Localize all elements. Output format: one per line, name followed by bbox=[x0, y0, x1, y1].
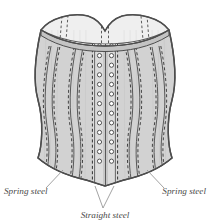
diagram-canvas: Spring steel Spring steel Straight steel bbox=[0, 0, 210, 223]
busk-eyelet bbox=[109, 111, 113, 115]
corset-boning-diagram: Spring steel Spring steel Straight steel bbox=[0, 0, 210, 223]
busk-eyelet bbox=[109, 54, 113, 58]
busk-eyelet bbox=[97, 54, 101, 58]
busk-eyelet bbox=[109, 159, 113, 163]
busk-eyelet bbox=[109, 63, 113, 67]
busk-eyelet bbox=[109, 82, 113, 86]
callout-label-straight-steel: Straight steel bbox=[81, 210, 130, 220]
callout-label-spring-steel-left: Spring steel bbox=[4, 186, 48, 196]
busk-eyelet bbox=[97, 130, 101, 134]
callout-label-spring-steel-right: Spring steel bbox=[162, 186, 206, 196]
busk-eyelet bbox=[109, 121, 113, 125]
busk-eyelet bbox=[97, 111, 101, 115]
busk-eyelet bbox=[109, 150, 113, 154]
busk-eyelet bbox=[97, 82, 101, 86]
leader-line-straight-steel-right bbox=[103, 186, 114, 208]
busk-eyelet bbox=[97, 102, 101, 106]
busk-eyelet bbox=[109, 130, 113, 134]
busk-eyelet bbox=[109, 92, 113, 96]
busk-eyelet bbox=[97, 92, 101, 96]
busk-eyelet bbox=[97, 73, 101, 77]
leader-line-spring-steel-left bbox=[46, 170, 63, 188]
busk-eyelet bbox=[97, 159, 101, 163]
leader-line-straight-steel-left bbox=[95, 186, 103, 208]
busk-eyelet bbox=[109, 140, 113, 144]
busk-eyelet bbox=[97, 140, 101, 144]
busk-eyelet bbox=[109, 73, 113, 77]
busk-eyelet bbox=[97, 63, 101, 67]
busk-eyelet bbox=[97, 150, 101, 154]
busk-eyelet bbox=[109, 102, 113, 106]
busk-eyelet bbox=[97, 121, 101, 125]
